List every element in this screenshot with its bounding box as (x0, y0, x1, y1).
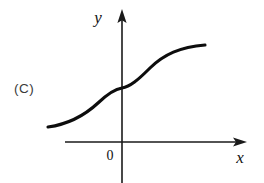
y-axis-label: y (92, 8, 102, 27)
origin-label: 0 (107, 148, 114, 163)
graph-svg: y x 0 (0, 0, 264, 183)
sigmoid-curve (48, 45, 205, 127)
figure-container: (C) y x 0 (0, 0, 264, 183)
x-axis-label: x (235, 148, 244, 167)
